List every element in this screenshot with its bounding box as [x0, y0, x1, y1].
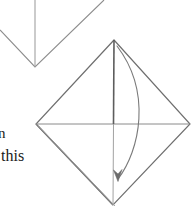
main-diamond-figure	[36, 40, 190, 206]
origami-diagram-page: n this	[0, 0, 195, 208]
vertical-center-crease-lower	[113, 124, 114, 205]
origami-diagram-canvas	[0, 0, 195, 208]
caption-line-1: n	[0, 126, 6, 141]
previous-step-v-outline	[0, 0, 104, 67]
partial-figure-top-left	[0, 0, 104, 67]
vertical-center-crease-upper	[114, 40, 115, 124]
caption-line-2: this	[1, 148, 24, 164]
